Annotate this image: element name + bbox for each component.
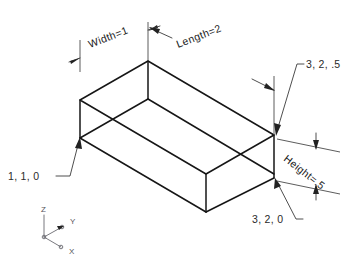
diagram-canvas: Width=1 Length=2 Height=.5 — [0, 0, 364, 267]
axis-label-x: X — [69, 247, 75, 256]
length-arrow-right — [264, 83, 275, 91]
callout-top-far-label: 3, 2, .5 — [306, 58, 341, 70]
callout-origin-label: 1, 1, 0 — [8, 170, 39, 182]
callout-top-far-leader — [277, 64, 304, 131]
axis-triad: Z Y X — [41, 205, 76, 256]
height-extension-top — [277, 139, 340, 152]
axis-label-y: Y — [70, 217, 76, 226]
box-edge-bottom-right — [206, 178, 274, 212]
length-dimension-label: Length=2 — [174, 22, 222, 50]
dimension-height: Height=.5 — [277, 133, 340, 200]
callout-corner-top-far: 3, 2, .5 — [274, 58, 341, 136]
callout-bottom-far-label: 3, 2, 0 — [252, 213, 283, 225]
width-arrow-left — [70, 58, 80, 64]
box-edge-back-bottom-right — [148, 99, 274, 174]
height-dimension-label: Height=.5 — [282, 152, 328, 192]
box-edge-back-bottom-left — [80, 99, 148, 138]
height-arrow-top — [313, 140, 319, 150]
height-extension-bottom — [277, 181, 340, 194]
callout-corner-origin: 1, 1, 0 — [8, 137, 82, 182]
callout-origin-leader — [56, 141, 79, 176]
dimension-width: Width=1 — [69, 22, 160, 72]
dimension-length: Length=2 — [149, 22, 275, 135]
box-dimension-diagram: Width=1 Length=2 Height=.5 — [0, 0, 364, 267]
axis-label-z: Z — [41, 205, 46, 214]
box-edge-bottom-left — [80, 138, 206, 212]
width-dimension-label: Width=1 — [86, 24, 129, 50]
axis-line-x — [44, 237, 61, 247]
box-wireframe — [80, 61, 274, 212]
callout-top-far-arrow — [274, 123, 281, 136]
length-arrow-left — [149, 27, 160, 34]
